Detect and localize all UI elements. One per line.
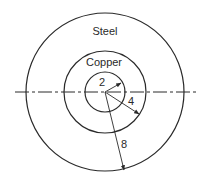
- steel-label: Steel: [92, 25, 117, 37]
- dimension-label-8: 8: [121, 138, 127, 150]
- concentric-circles-diagram: Steel Copper 2 4 8: [0, 0, 204, 181]
- radius-arrow-2: [105, 83, 121, 92]
- dimension-label-2: 2: [99, 76, 105, 88]
- dimension-label-4: 4: [128, 95, 134, 107]
- copper-label: Copper: [86, 56, 122, 68]
